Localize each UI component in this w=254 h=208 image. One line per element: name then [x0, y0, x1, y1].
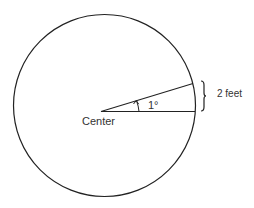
- brace-icon: [201, 81, 206, 111]
- circle-outline: [14, 15, 196, 197]
- circle-diagram: Center 1° 2 feet: [0, 0, 254, 208]
- radius-line-angled: [101, 84, 193, 112]
- center-label: Center: [82, 115, 115, 127]
- angle-label: 1°: [148, 99, 159, 111]
- arc-length-label: 2 feet: [217, 88, 242, 99]
